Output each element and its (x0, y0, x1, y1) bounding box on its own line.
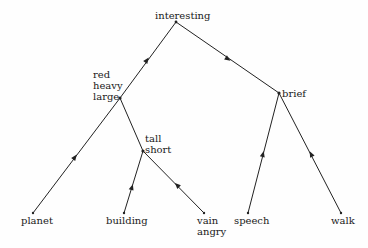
leaf-building: building (106, 215, 148, 226)
leaf-walk: walk (331, 215, 355, 226)
edge-vain-to-tall (143, 151, 204, 213)
arrow-icon (129, 183, 136, 190)
edge-tall-to-red (120, 98, 143, 151)
leaf-planet: planet (21, 215, 53, 226)
node-red-heavy-large: red heavy large (93, 69, 123, 102)
arrow-icon (260, 150, 266, 157)
leaf-vain-angry: vain angry (197, 215, 226, 237)
node-brief: brief (282, 88, 306, 99)
arrowheads (32, 21, 342, 215)
tree-edges (0, 0, 368, 248)
node-label-red: red (93, 69, 123, 80)
leaf-speech: speech (234, 215, 269, 226)
node-label-tall: tall (145, 133, 171, 144)
node-interesting: interesting (155, 10, 210, 21)
leaf-label-vain: vain (197, 215, 226, 226)
edge-building-to-tall (124, 151, 143, 213)
arrow-icon (307, 150, 314, 158)
tree-diagram: interesting red heavy large tall short b… (0, 0, 368, 248)
node-tall-short: tall short (145, 133, 171, 155)
node-label-short: short (145, 144, 171, 155)
leaf-label-angry: angry (197, 226, 226, 237)
node-label-heavy: heavy (93, 80, 123, 91)
node-label-large: large (93, 91, 123, 102)
